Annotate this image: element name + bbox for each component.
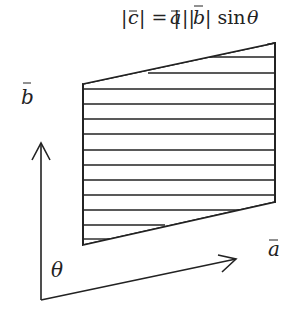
formula-theta: θ — [247, 6, 259, 28]
cross-product-diagram: | c | = | a || b | sin θ — [0, 0, 305, 319]
formula-abs-open-c: | — [121, 6, 127, 29]
formula-title: | c | = | a || b | sin θ — [121, 6, 259, 29]
formula-a: a — [170, 6, 181, 28]
formula-c: c — [128, 6, 139, 28]
vector-a-arrowhead-icon — [218, 255, 236, 272]
label-vector-a: a — [268, 237, 280, 261]
vector-a-line — [41, 259, 236, 300]
label-angle-theta: θ — [51, 258, 63, 282]
formula-b: b — [193, 6, 205, 28]
label-vector-b: b — [21, 85, 34, 109]
formula-sin: | sin — [205, 6, 246, 29]
